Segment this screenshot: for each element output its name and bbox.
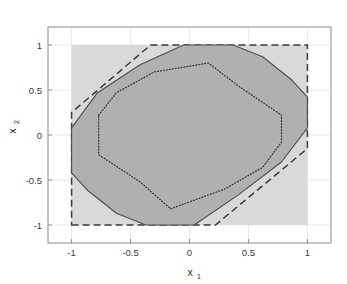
y-axis-title: x 2 — [6, 120, 20, 134]
y-tick-label: 0 — [37, 130, 42, 141]
y-tick-label: -0.5 — [26, 175, 42, 186]
x-axis-title: x 1 — [187, 266, 201, 280]
chart-figure: -1-0.500.51-1-0.500.51 x 1 x 2 — [0, 0, 347, 284]
y-axis-title-sub: 2 — [13, 120, 20, 124]
x-axis-title-sub: 1 — [197, 273, 201, 280]
data-regions — [72, 45, 308, 225]
x-tick-label: 1 — [305, 247, 310, 258]
x-tick-label: 0 — [187, 247, 192, 258]
y-tick-label: -1 — [34, 220, 42, 231]
y-tick-label: 1 — [37, 40, 42, 51]
chart-svg: -1-0.500.51-1-0.500.51 x 1 x 2 — [0, 0, 347, 284]
y-axis-title-base: x — [6, 128, 18, 134]
x-axis-title-base: x — [187, 266, 193, 278]
x-tick-label: -1 — [67, 247, 75, 258]
x-tick-label: 0.5 — [242, 247, 255, 258]
x-tick-label: -0.5 — [122, 247, 138, 258]
y-tick-label: 0.5 — [29, 85, 42, 96]
